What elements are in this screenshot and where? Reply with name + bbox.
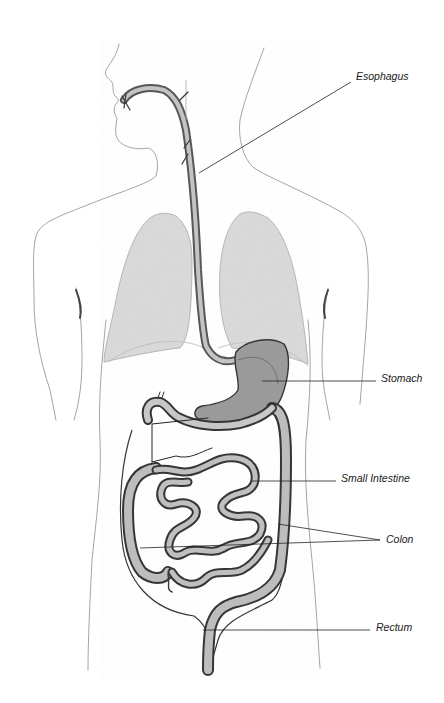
label-esophagus: Esophagus	[356, 70, 409, 82]
label-rectum: Rectum	[376, 621, 412, 633]
label-small-intestine: Small Intestine	[341, 472, 410, 484]
digestive-system-illustration	[0, 0, 444, 703]
label-colon: Colon	[386, 533, 413, 545]
label-stomach: Stomach	[381, 372, 422, 384]
